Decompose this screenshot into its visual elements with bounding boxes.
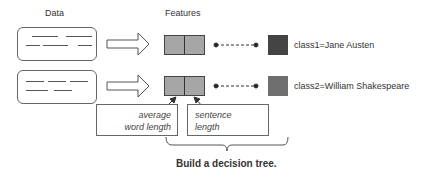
brace — [166, 137, 288, 151]
dashed-connector-1 — [214, 43, 258, 47]
feature-label-right-line2: length — [195, 121, 268, 133]
feature-label-left-line2: word length — [97, 121, 171, 133]
feature-vector-2 — [164, 76, 205, 96]
class-1-swatch — [268, 35, 288, 55]
class-2-swatch — [268, 76, 288, 96]
class-1-label: class1=Jane Austen — [294, 40, 374, 50]
feature-label-left-line1: average — [97, 109, 171, 121]
right-arrow-icon — [107, 75, 149, 97]
feature-label-sentence-length: sentence length — [187, 104, 269, 136]
class-2-label: class2=William Shakespeare — [294, 81, 409, 91]
dashed-connector-2 — [214, 84, 258, 88]
feature-label-right-line1: sentence — [195, 109, 268, 121]
feature-label-average-word-length: average word length — [96, 104, 178, 136]
feature-vector-1 — [164, 35, 205, 55]
caption: Build a decision tree. — [176, 158, 277, 169]
right-arrow-icon — [107, 33, 149, 55]
